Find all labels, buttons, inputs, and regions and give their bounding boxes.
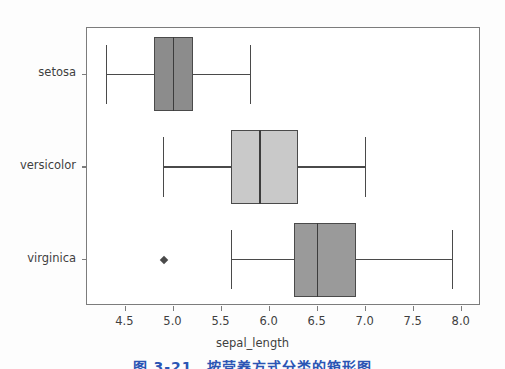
- whisker-low-virginica: [231, 259, 293, 260]
- x-tick-label-4.5: 4.5: [115, 314, 133, 328]
- box-versicolor: [231, 130, 298, 204]
- x-tick-label-6.0: 6.0: [259, 314, 277, 328]
- x-tick-5.5: [221, 306, 222, 311]
- whisker-cap-low-setosa: [106, 45, 107, 104]
- x-tick-6.0: [269, 306, 270, 311]
- x-tick-label-7.0: 7.0: [356, 314, 374, 328]
- x-tick-5.0: [173, 306, 174, 311]
- y-tick-versicolor: [82, 166, 87, 167]
- y-tick-label-versicolor: versicolor: [0, 158, 76, 172]
- median-virginica: [317, 223, 318, 297]
- figure-canvas: sepal_length 图 3-21 按营养方式分类的箱形图 setosave…: [0, 0, 505, 369]
- whisker-high-setosa: [193, 74, 251, 75]
- outlier-virginica-0: [160, 255, 168, 263]
- box-virginica: [294, 223, 356, 297]
- x-tick-label-7.5: 7.5: [404, 314, 422, 328]
- x-tick-8.0: [461, 306, 462, 311]
- x-tick-6.5: [317, 306, 318, 311]
- whisker-low-versicolor: [164, 166, 231, 167]
- y-tick-virginica: [82, 259, 87, 260]
- y-tick-setosa: [82, 74, 87, 75]
- x-tick-label-6.5: 6.5: [307, 314, 325, 328]
- x-tick-4.5: [125, 306, 126, 311]
- x-tick-7.0: [365, 306, 366, 311]
- whisker-cap-high-setosa: [250, 45, 251, 104]
- median-versicolor: [259, 130, 260, 204]
- figure-caption-clipped: 图 3-21 按营养方式分类的箱形图: [0, 360, 505, 369]
- whisker-high-virginica: [356, 259, 452, 260]
- whisker-low-setosa: [106, 74, 154, 75]
- figure-caption-text: 图 3-21 按营养方式分类的箱形图: [0, 360, 505, 369]
- x-tick-7.5: [413, 306, 414, 311]
- x-tick-label-5.0: 5.0: [163, 314, 181, 328]
- whisker-cap-high-virginica: [452, 230, 453, 289]
- x-axis-title: sepal_length: [0, 336, 505, 350]
- whisker-cap-low-versicolor: [163, 137, 164, 196]
- x-tick-label-8.0: 8.0: [452, 314, 470, 328]
- whisker-cap-low-virginica: [231, 230, 232, 289]
- plot-area: [86, 27, 480, 305]
- y-tick-label-setosa: setosa: [0, 65, 76, 79]
- median-setosa: [173, 37, 174, 111]
- whisker-cap-high-versicolor: [365, 137, 366, 196]
- y-tick-label-virginica: virginica: [0, 251, 76, 265]
- whisker-high-versicolor: [298, 166, 365, 167]
- x-tick-label-5.5: 5.5: [211, 314, 229, 328]
